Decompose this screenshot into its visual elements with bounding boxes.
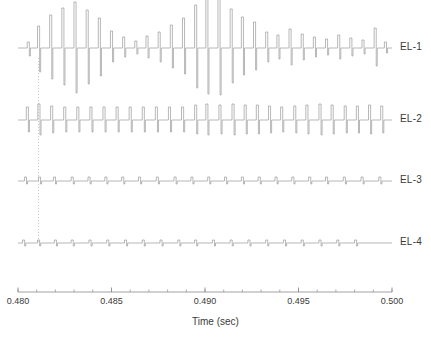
spike-train-figure: EL-1EL-2EL-3EL-4 0.4800.4850.4900.4950.5… [0,0,431,340]
x-tick-label: 0.480 [0,296,40,306]
channel-label-el-1: EL-1 [400,41,422,52]
trace-canvas [0,0,431,340]
channel-label-el-3: EL-3 [400,174,422,185]
x-axis-title: Time (sec) [0,316,431,327]
x-axis [18,288,392,293]
trace-el-4 [18,240,392,246]
x-tick-label: 0.485 [90,296,134,306]
x-tick-label: 0.495 [277,296,321,306]
x-tick-label: 0.490 [183,296,227,306]
channel-label-el-2: EL-2 [400,113,422,124]
trace-el-2 [18,104,392,135]
channel-label-el-4: EL-4 [400,236,422,247]
x-tick-label: 0.500 [370,296,414,306]
trace-el-1 [18,0,392,95]
trace-el-3 [18,177,392,184]
